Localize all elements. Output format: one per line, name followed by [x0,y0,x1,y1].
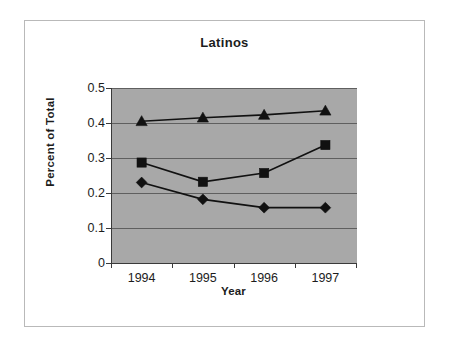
y-tick-label: 0.1 [88,221,105,235]
series-diamond-marker [197,194,208,205]
series-triangle [136,105,331,125]
x-tick-label: 1994 [128,271,156,285]
x-tick-label: 1995 [189,271,217,285]
x-tick-mark [172,263,173,268]
series-diamond [136,177,331,213]
chart-title: Latinos [25,35,424,50]
x-tick-label: 1996 [250,271,278,285]
chart-figure-frame: Latinos Percent of Total 00.10.20.30.40.… [24,20,425,327]
series-triangle-marker [320,105,331,115]
series-square-marker [321,140,330,149]
series-square-marker [137,158,146,167]
y-tick-label: 0.2 [88,186,105,200]
x-tick-mark [111,263,112,268]
series-square [137,140,330,186]
x-axis-title: Year [111,285,356,297]
x-tick-mark [234,263,235,268]
series-square-line [142,145,326,182]
series-diamond-marker [320,202,331,213]
series-square-marker [260,168,269,177]
series-diamond-line [142,183,326,208]
series-triangle-line [142,111,326,122]
y-tick-label: 0.3 [88,151,105,165]
series-diamond-marker [259,202,270,213]
y-tick-label: 0.4 [88,116,105,130]
series-layer [111,88,356,263]
y-tick-label: 0 [98,256,105,270]
x-tick-label: 1997 [311,271,339,285]
y-axis-title: Percent of Total [44,87,60,197]
series-square-marker [198,177,207,186]
series-diamond-marker [136,177,147,188]
x-tick-mark [295,263,296,268]
x-tick-mark [356,263,357,268]
y-tick-label: 0.5 [88,81,105,95]
plot-wrapper: 00.10.20.30.40.5 1994199519961997 [111,88,356,263]
